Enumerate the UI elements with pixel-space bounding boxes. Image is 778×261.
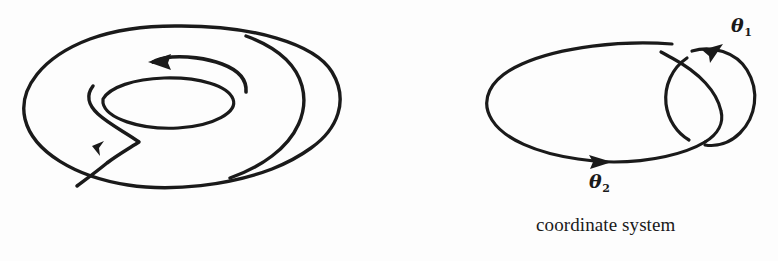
- torus-tube-wrap-curve: [230, 36, 304, 178]
- theta1-subscript: 1: [744, 26, 752, 39]
- coordinate-system-caption: coordinate system: [536, 215, 675, 234]
- torus-meridian-arrowhead: [148, 54, 171, 70]
- theta1-circle-arc-right: [692, 49, 755, 146]
- torus-diagram: [0, 0, 400, 261]
- theta2-subscript: 2: [602, 182, 610, 195]
- torus-longitude-curve: [77, 86, 139, 186]
- torus-longitude-arrowhead: [92, 141, 104, 156]
- theta2-ellipse-outline: [487, 43, 705, 162]
- theta2-label: θ2: [589, 172, 609, 191]
- torus-inner-hole-outline: [103, 78, 234, 128]
- theta2-ellipse-continuation: [661, 52, 722, 142]
- torus-outer-outline: [24, 26, 340, 188]
- theta1-arrowhead: [702, 44, 723, 63]
- figure-page: θ1 θ2 coordinate system: [0, 0, 778, 261]
- theta1-label: θ1: [731, 16, 751, 35]
- theta2-symbol: θ: [589, 170, 602, 192]
- theta1-circle-arc-left: [666, 58, 689, 140]
- theta1-symbol: θ: [731, 14, 744, 36]
- torus-svg: [0, 0, 400, 261]
